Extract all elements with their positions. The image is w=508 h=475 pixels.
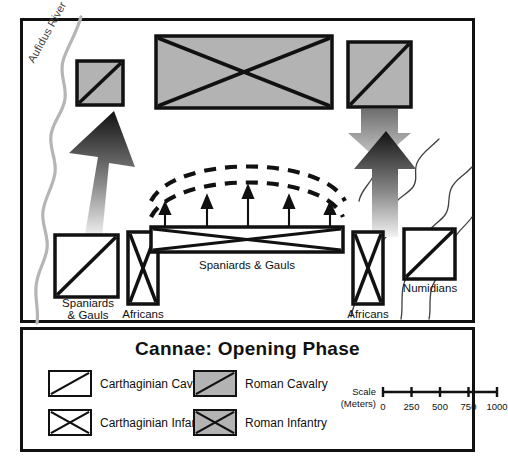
legend-item-roman-cavalry: Roman Cavalry	[193, 370, 328, 397]
carthaginian-infantry-swatch-icon	[48, 409, 92, 436]
legend-item-roman-infantry: Roman Infantry	[193, 409, 327, 436]
legend-title: Cannae: Opening Phase	[23, 338, 472, 360]
carthaginian-cavalry-left-arrow	[69, 111, 135, 237]
label-africans-left: Africans	[107, 309, 179, 321]
label-numidians: Numidians	[390, 283, 470, 295]
unit-carthaginian-cavalry-left[interactable]	[55, 235, 118, 297]
carthaginian-cavalry-right-arrow	[354, 131, 416, 237]
legend-label: Roman Cavalry	[245, 377, 328, 391]
scale-tick-750: 750	[461, 401, 477, 412]
scale-tick-1000: 1000	[486, 401, 507, 412]
carthaginian-cavalry-swatch-icon	[48, 370, 92, 397]
unit-carthaginian-infantry-center[interactable]	[151, 227, 343, 252]
scale-caption: Scale (Meters)	[318, 386, 376, 410]
unit-carthaginian-cavalry-right[interactable]	[404, 229, 455, 279]
legend-item-carthaginian-cavalry: Carthaginian Cavalry	[48, 370, 212, 397]
map-graphics	[23, 21, 472, 320]
legend-label: Roman Infantry	[245, 416, 327, 430]
unit-roman-cavalry-left[interactable]	[77, 61, 123, 105]
scale-tick-0: 0	[380, 401, 385, 412]
scale-tick-500: 500	[432, 401, 448, 412]
legend-item-carthaginian-infantry: Carthaginian Infantry	[48, 409, 211, 436]
label-africans-right: Africans	[332, 309, 404, 321]
unit-roman-infantry-center[interactable]	[156, 36, 332, 108]
roman-infantry-swatch-icon	[193, 409, 237, 436]
label-spaniards-gauls-center: Spaniards & Gauls	[177, 260, 317, 272]
scale-tick-250: 250	[404, 401, 420, 412]
roman-cavalry-swatch-icon	[193, 370, 237, 397]
scale-bar-graphic	[380, 386, 500, 400]
legend-panel: Cannae: Opening Phase Carthaginian Caval…	[20, 327, 475, 452]
scale-caption-line1: Scale	[318, 386, 376, 398]
map-panel: Aufidus River Spaniards & Gauls Africans…	[20, 18, 475, 323]
unit-roman-cavalry-right[interactable]	[348, 42, 411, 107]
unit-carthaginian-infantry-right[interactable]	[353, 232, 383, 304]
scale-caption-line2: (Meters)	[318, 398, 376, 410]
